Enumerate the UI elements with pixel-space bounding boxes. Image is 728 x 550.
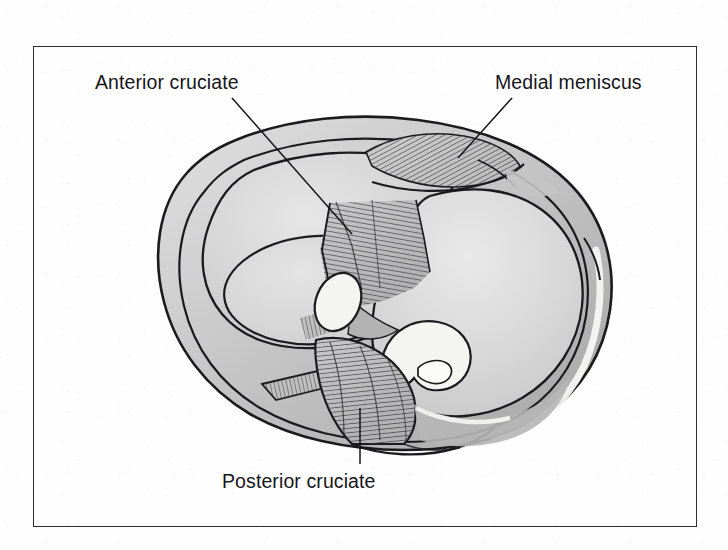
figure-page: Anterior cruciate Medial meniscus Poster… [0,0,728,550]
label-posterior-cruciate: Posterior cruciate [222,472,376,492]
label-anterior-cruciate: Anterior cruciate [95,73,239,93]
label-medial-meniscus: Medial meniscus [495,73,642,93]
